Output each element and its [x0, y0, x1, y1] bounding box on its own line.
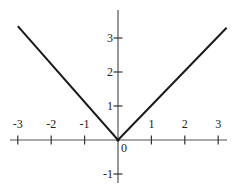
y-ticks: -1123	[103, 31, 123, 181]
origin-label: 0	[121, 141, 127, 155]
x-tick-label: 3	[215, 117, 221, 131]
x-tick-label: -1	[80, 117, 90, 131]
axes	[10, 10, 227, 183]
y-tick-label: 1	[107, 99, 113, 113]
x-tick-label: 1	[148, 117, 154, 131]
y-tick-label: 2	[107, 65, 113, 79]
x-tick-label: -3	[13, 117, 23, 131]
y-tick-label: -1	[103, 167, 113, 181]
vertex-point	[116, 138, 119, 141]
x-tick-label: -2	[46, 117, 56, 131]
x-tick-label: 2	[182, 117, 188, 131]
y-tick-label: 3	[107, 31, 113, 45]
chart: -3-2-1123 -1123 0	[0, 0, 237, 194]
